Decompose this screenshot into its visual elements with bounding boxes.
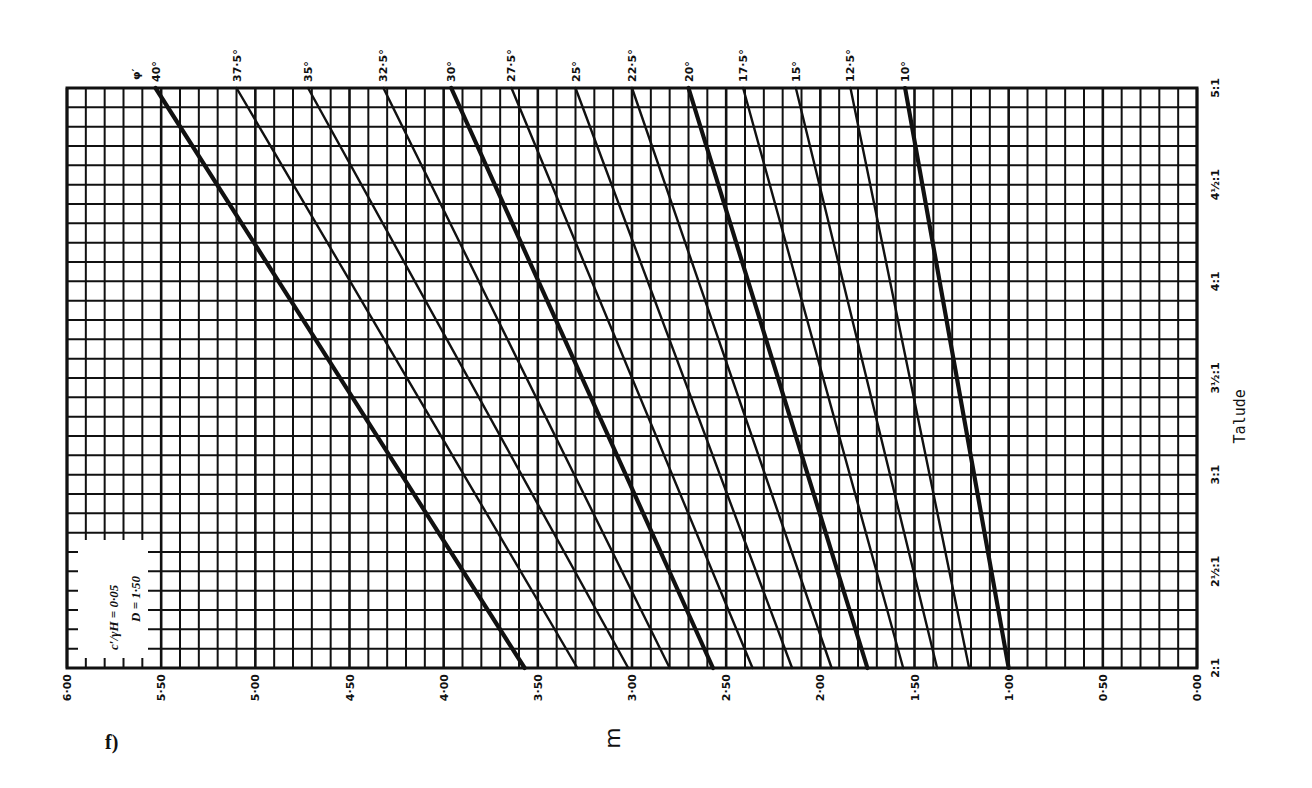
- series-label: 37·5°: [231, 49, 244, 82]
- x-tick-label: 2·50: [720, 674, 733, 701]
- series-label: 22·5°: [626, 49, 639, 82]
- series-label: 10°: [899, 61, 912, 82]
- series-label: 15°: [790, 61, 803, 82]
- legend-depth-factor: D = 1·50: [128, 575, 143, 623]
- y-axis-title: Talude: [1231, 389, 1249, 443]
- legend-cohesion-ratio: c′/γH = 0·05: [106, 584, 121, 650]
- series-label: 12·5°: [844, 49, 857, 82]
- series-label: 20°: [683, 61, 696, 82]
- series-labels: 40°37·5°35°32·5°30°27·5°25°22·5°20°17·5°…: [130, 49, 913, 82]
- figure-label: f): [105, 731, 118, 754]
- series-label: 40°: [150, 61, 163, 82]
- series-label: 27·5°: [505, 49, 518, 82]
- chart: c′/γH = 0·05D = 1·50 40°37·5°35°32·5°30°…: [0, 0, 1312, 788]
- x-tick-label: 1·50: [909, 674, 922, 701]
- x-tick-label: 3·50: [532, 674, 545, 701]
- x-tick-label: 3·00: [626, 674, 639, 701]
- x-tick-label: 4·50: [344, 674, 357, 701]
- x-tick-label: 0·00: [1191, 674, 1204, 701]
- series-label: 32·5°: [377, 49, 390, 82]
- legend-box: c′/γH = 0·05D = 1·50: [78, 540, 148, 658]
- series-label: 17·5°: [737, 49, 750, 82]
- y-tick-label: 4½:1: [1209, 169, 1222, 200]
- x-tick-label: 2·00: [814, 674, 827, 701]
- x-axis-title: m: [600, 727, 625, 748]
- series-label: 25°: [570, 61, 583, 82]
- y-tick-label: 3:1: [1209, 465, 1222, 485]
- x-tick-label: 5·00: [249, 674, 262, 701]
- y-axis-ticks: 2:12½:13:13½:14:14½:15:1: [1209, 78, 1222, 678]
- y-tick-label: 5:1: [1209, 78, 1222, 98]
- y-tick-label: 3½:1: [1209, 362, 1222, 393]
- phi-prime-symbol: φ′: [130, 68, 143, 80]
- y-tick-label: 2½:1: [1209, 556, 1222, 587]
- axis-titles: Taludem: [600, 389, 1249, 748]
- x-axis-ticks: 6·005·505·004·504·003·503·002·502·001·50…: [61, 674, 1204, 701]
- series-label: 30°: [445, 61, 458, 82]
- y-tick-label: 4:1: [1209, 271, 1222, 291]
- x-tick-label: 1·00: [1003, 674, 1016, 701]
- x-tick-label: 5·50: [155, 674, 168, 701]
- series-label: 35°: [302, 61, 315, 82]
- y-tick-label: 2:1: [1209, 658, 1222, 678]
- x-tick-label: 4·00: [438, 674, 451, 701]
- x-tick-label: 0·50: [1097, 674, 1110, 701]
- x-tick-label: 6·00: [61, 674, 74, 701]
